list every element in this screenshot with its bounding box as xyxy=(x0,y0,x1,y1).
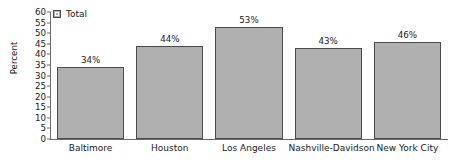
bar-chart: Percent Total 605550454035302520151050 3… xyxy=(0,0,460,168)
x-axis-category-label: New York City xyxy=(368,143,447,153)
y-tick-label: 5 xyxy=(40,124,46,133)
bar-series-total: 34%44%53%43%46% xyxy=(51,12,447,139)
bar-slot: 34% xyxy=(51,12,130,139)
bar-slot: 46% xyxy=(368,12,447,139)
x-axis-line xyxy=(50,139,448,140)
plot-area: 605550454035302520151050 34%44%53%43%46% xyxy=(51,12,447,139)
bar-slot: 53% xyxy=(209,12,288,139)
y-tick-label: 10 xyxy=(35,113,46,122)
y-tick-label: 25 xyxy=(35,82,46,91)
bar[interactable] xyxy=(295,48,362,139)
bar[interactable] xyxy=(215,27,282,139)
y-tick-label: 45 xyxy=(35,39,46,48)
y-tick-label: 50 xyxy=(35,29,46,38)
bar-value-label: 43% xyxy=(289,36,368,46)
x-axis-category-label: Los Angeles xyxy=(209,143,288,153)
bar[interactable] xyxy=(136,46,203,139)
y-tick-label: 30 xyxy=(35,71,46,80)
y-tick-label: 60 xyxy=(35,8,46,17)
y-tick-label: 15 xyxy=(35,103,46,112)
bar[interactable] xyxy=(374,42,441,139)
bar-slot: 44% xyxy=(130,12,209,139)
bar-value-label: 34% xyxy=(51,55,130,65)
x-axis-category-label: Baltimore xyxy=(51,143,130,153)
y-tick-label: 40 xyxy=(35,50,46,59)
y-axis-title: Percent xyxy=(9,28,19,88)
y-tick-label: 35 xyxy=(35,61,46,70)
x-axis-category-label: Nashville-Davidson xyxy=(289,143,368,153)
y-tick-label: 20 xyxy=(35,92,46,101)
bar-value-label: 53% xyxy=(209,15,288,25)
x-axis-category-label: Houston xyxy=(130,143,209,153)
y-tick-label: 55 xyxy=(35,18,46,27)
bar[interactable] xyxy=(57,67,124,139)
bar-value-label: 46% xyxy=(368,30,447,40)
x-axis-category-labels: BaltimoreHoustonLos AngelesNashville-Dav… xyxy=(51,143,447,159)
bar-value-label: 44% xyxy=(130,34,209,44)
y-tick-label: 0 xyxy=(40,135,46,144)
bar-slot: 43% xyxy=(289,12,368,139)
